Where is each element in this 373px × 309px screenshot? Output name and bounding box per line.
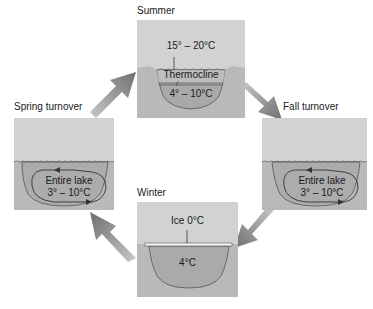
fall-line2: 3° – 10°C — [286, 187, 358, 198]
arrow-spring-to-summer — [90, 72, 136, 118]
summer-thermocline-label: Thermocline — [137, 69, 245, 80]
spring-line2: 3° – 10°C — [34, 187, 104, 198]
summer-surface-temp: 15° – 20°C — [137, 40, 245, 51]
spring-label: Spring turnover — [14, 101, 82, 112]
winter-bottom-temp: 4°C — [137, 257, 238, 268]
summer-panel: 15° – 20°C Thermocline 4° – 10°C — [137, 20, 245, 118]
winter-label: Winter — [137, 187, 166, 198]
winter-ice-label: Ice 0°C — [137, 215, 238, 226]
summer-label: Summer — [137, 5, 175, 16]
arrow-fall-to-winter — [234, 206, 274, 248]
spring-line1: Entire lake — [34, 175, 104, 186]
summer-bottom-temp: 4° – 10°C — [137, 88, 245, 99]
spring-panel: Entire lake 3° – 10°C — [14, 118, 114, 210]
fall-line1: Entire lake — [286, 175, 358, 186]
arrow-winter-to-spring — [90, 212, 136, 262]
fall-label: Fall turnover — [283, 101, 339, 112]
arrow-summer-to-fall — [242, 82, 282, 120]
fall-panel: Entire lake 3° – 10°C — [262, 118, 367, 210]
winter-panel: Ice 0°C 4°C — [137, 202, 238, 297]
